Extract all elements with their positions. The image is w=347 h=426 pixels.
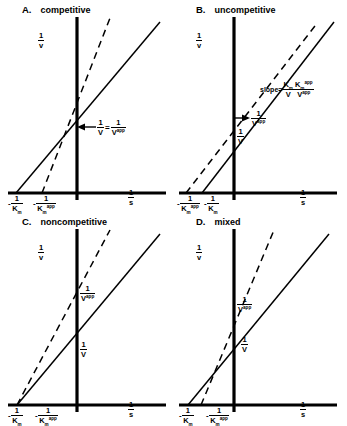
panel-a-plot — [0, 0, 173, 212]
panel-c-x-intercept-inhibited: -1Kmapp — [35, 406, 58, 425]
panel-a-x-axis-label: 1s — [128, 188, 134, 207]
panel-a-y-intercept-label: 1V=1Vapp — [97, 118, 126, 137]
panel-c-noncompetitive: C.noncompetitive 1v 1Vapp 1V -1Km -1Kmap… — [0, 212, 173, 424]
panel-b-line-uninhibited — [202, 22, 334, 193]
panel-a-x-intercept-uninhibited: -1Km — [8, 194, 23, 213]
panel-c-plot — [0, 212, 173, 424]
panel-a-1-over-V: 1V — [97, 119, 104, 137]
panel-d-mixed: D.mixed 1v 1Vapp 1V -1Km -1Kmapp 1s — [174, 212, 347, 424]
panel-b-slope-annotation: slope=KmVKmappVapp — [260, 80, 314, 99]
panel-d-y-intercept-inhibited: 1Vapp — [237, 295, 252, 314]
panel-a-x-intercept-inhibited: -1Kmapp — [33, 194, 56, 213]
panel-d-x-axis-label: 1s — [300, 400, 306, 419]
panel-d-y-axis-label: 1v — [196, 243, 202, 262]
panel-a-1-over-Vapp: 1Vapp — [111, 119, 126, 137]
panel-d-line-uninhibited — [188, 234, 329, 405]
panel-a-equals-sign: = — [105, 123, 110, 132]
panel-b-y-intercept-inhibited: 1Vapp — [251, 109, 266, 128]
panel-d-line-inhibited — [201, 230, 274, 405]
panel-b-uncompetitive: B.uncompetitive 1v 1Vapp 1V slope=KmVKma… — [174, 0, 347, 212]
panel-b-line-inhibited — [186, 22, 318, 193]
panel-c-y-intercept-uninhibited: 1V — [80, 340, 87, 359]
panel-d-y-intercept-uninhibited: 1V — [241, 335, 248, 354]
panel-b-y-axis-label: 1v — [196, 31, 202, 50]
panel-b-y-intercept-uninhibited: 1V — [237, 127, 244, 146]
panel-b-x-intercept-uninhibited: -1Km — [204, 194, 219, 213]
panel-c-y-intercept-inhibited: 1Vapp — [80, 284, 95, 303]
panel-b-x-axis-label: 1s — [300, 188, 306, 207]
panel-a-competitive: A.competitive 1v 1V=1Vapp -1Km -1Kmapp 1… — [0, 0, 173, 212]
panel-c-x-axis-label: 1s — [128, 400, 134, 419]
panel-b-x-intercept-inhibited: -1Kmapp — [177, 194, 200, 213]
panel-a-y-axis-label: 1v — [38, 31, 44, 50]
panel-d-x-intercept-uninhibited: -1Km — [179, 406, 194, 425]
panel-d-x-intercept-inhibited: -1Kmapp — [206, 406, 229, 425]
panel-c-y-axis-label: 1v — [38, 243, 44, 262]
panel-c-line-inhibited — [17, 230, 110, 405]
panel-c-x-intercept-uninhibited: -1Km — [8, 406, 23, 425]
